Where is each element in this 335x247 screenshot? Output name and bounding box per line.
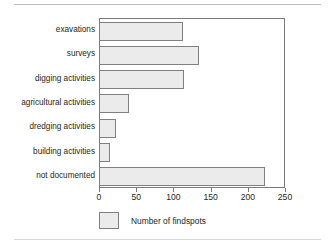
x-axis-tick-label: 200 [228,192,268,202]
x-axis-tick-label: 0 [79,192,119,202]
category-label-not-documented: not documented [0,171,95,181]
category-label-agricultural-activities: agricultural activities [0,98,95,108]
x-axis-tick-label: 50 [116,192,156,202]
bar-band [100,19,284,43]
category-label-surveys: surveys [0,49,95,59]
top-divider [14,4,321,5]
x-axis-tick-label: 100 [153,192,193,202]
category-label-building-activities: building activities [0,147,95,157]
bar-band [100,43,284,67]
bar-band [100,92,284,116]
bottom-divider [14,239,321,240]
bar-dredging-activities[interactable] [99,119,116,138]
category-label-exavations: exavations [0,25,95,35]
bar-digging-activities[interactable] [99,70,184,89]
x-axis-tick-label: 250 [265,192,305,202]
plot-area [99,18,285,188]
bar-building-activities[interactable] [99,143,110,162]
x-axis-tick-label: 150 [191,192,231,202]
chart-legend: Number of findspots [99,212,206,229]
bar-band [100,165,284,189]
bar-band [100,116,284,140]
bar-exavations[interactable] [99,22,183,41]
bar-band [100,68,284,92]
bar-surveys[interactable] [99,46,199,65]
legend-swatch-number-of-findspots [99,212,119,229]
bar-chart-figure: Number of findspots exavationssurveysdig… [0,0,335,247]
legend-label-number-of-findspots: Number of findspots [131,216,206,226]
bar-agricultural-activities[interactable] [99,94,129,113]
category-label-digging-activities: digging activities [0,74,95,84]
category-label-dredging-activities: dredging activities [0,122,95,132]
bar-not-documented[interactable] [99,167,265,186]
bar-band [100,140,284,164]
